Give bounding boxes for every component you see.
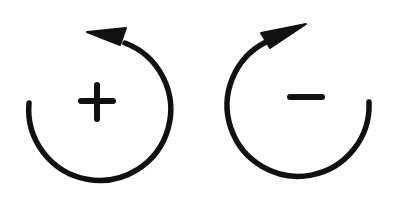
rotate-plus-arrowhead (87, 28, 126, 45)
rotate-plus-icon[interactable] (29, 28, 171, 180)
rotate-minus-arrowhead (261, 24, 306, 48)
rotate-minus-arc (227, 42, 369, 176)
icons-svg (0, 0, 396, 197)
rotate-minus-icon[interactable] (227, 24, 369, 176)
icon-canvas: Circular arrow with plus sign Circular a… (0, 0, 396, 197)
